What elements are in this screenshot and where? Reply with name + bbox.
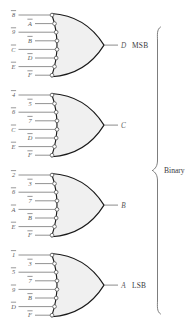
inverting-bubble [53, 22, 57, 26]
significance-label: LSB [132, 281, 146, 290]
inverting-bubble [55, 128, 59, 132]
inverting-bubble [50, 313, 54, 317]
input-label: B [28, 294, 32, 301]
or-gate-body [52, 14, 105, 77]
input-label: B [28, 37, 32, 44]
input-label: C [11, 46, 16, 53]
inverting-bubble [50, 173, 54, 177]
input-label: 7 [28, 277, 32, 284]
or-gate-body [52, 254, 105, 317]
input-label: E [11, 63, 16, 70]
input-label: A [11, 206, 16, 213]
inverting-bubble [53, 102, 57, 106]
inverting-bubble [50, 13, 54, 17]
inverting-bubble [50, 233, 54, 237]
output-label: A [120, 282, 126, 290]
inverting-bubble [55, 199, 59, 203]
inverting-bubble [54, 190, 58, 194]
gate-c [19, 93, 119, 157]
gates-layer [19, 13, 119, 317]
input-label: 3 [27, 180, 31, 187]
input-label: 9 [12, 286, 16, 293]
inverting-bubble [50, 253, 54, 257]
inverting-bubble [54, 216, 58, 220]
inverting-bubble [54, 30, 58, 34]
input-label: 8 [12, 11, 16, 18]
input-label: 4 [12, 91, 16, 98]
inverting-bubble [53, 262, 57, 266]
inverting-bubble [50, 73, 54, 77]
input-label: A [27, 20, 32, 27]
encoder-diagram: 8A9BCDEFDMSB4567CDEFC2367ABEFB13579BDFAL… [0, 0, 196, 334]
gate-b [19, 173, 119, 237]
input-label: B [28, 214, 32, 221]
or-gate-body [52, 94, 105, 157]
gate-d [19, 13, 119, 77]
inverting-bubble [54, 270, 58, 274]
inverting-bubble [53, 145, 57, 149]
inverting-bubble [54, 56, 58, 60]
inverting-bubble [55, 48, 59, 52]
inverting-bubble [54, 296, 58, 300]
or-gate-body [52, 174, 105, 237]
input-label: F [27, 311, 32, 318]
output-label: B [121, 202, 126, 210]
output-label: D [120, 42, 127, 50]
significance-label: MSB [132, 41, 148, 50]
input-label: 2 [12, 171, 16, 178]
input-label: D [10, 303, 16, 310]
input-label: 7 [28, 117, 32, 124]
inverting-bubble [55, 279, 59, 283]
inverting-bubble [50, 93, 54, 97]
input-label: 6 [12, 188, 16, 195]
inverting-bubble [55, 208, 59, 212]
input-label: 1 [12, 251, 15, 258]
input-label: D [27, 54, 33, 61]
input-label: F [27, 231, 32, 238]
inverting-bubble [53, 225, 57, 229]
input-label: C [11, 126, 16, 133]
inverting-bubble [55, 119, 59, 123]
diagram-canvas: 8A9BCDEFDMSB4567CDEFC2367ABEFB13579BDFAL… [0, 0, 196, 334]
input-label: E [11, 223, 16, 230]
inverting-bubble [50, 153, 54, 157]
inverting-bubble [53, 182, 57, 186]
inverting-bubble [54, 136, 58, 140]
input-label: 6 [12, 108, 16, 115]
input-label: F [27, 71, 32, 78]
input-label: 7 [28, 197, 32, 204]
input-label: 3 [27, 260, 31, 267]
input-label: 5 [12, 268, 15, 275]
input-label: E [11, 143, 16, 150]
inverting-bubble [54, 110, 58, 114]
binary-group-label: Binary [164, 166, 185, 175]
gate-a [19, 253, 119, 317]
brace-upper-path [153, 27, 161, 171]
brace-lower-path [153, 171, 161, 315]
output-label: C [121, 122, 126, 130]
input-label: F [27, 151, 32, 158]
inverting-bubble [53, 65, 57, 69]
input-label: 5 [28, 100, 31, 107]
binary-group-brace [153, 27, 161, 314]
input-label: 9 [12, 28, 16, 35]
inverting-bubble [55, 39, 59, 43]
inverting-bubble [55, 288, 59, 292]
input-label: D [27, 134, 33, 141]
inverting-bubble [53, 305, 57, 309]
